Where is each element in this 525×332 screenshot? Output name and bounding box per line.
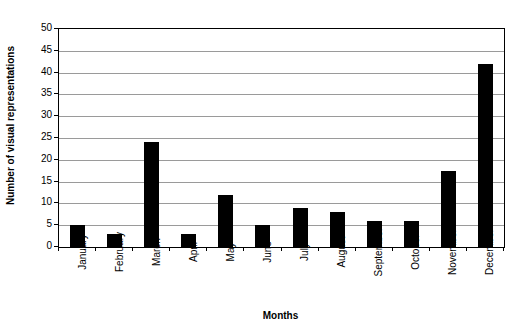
bar[interactable] bbox=[144, 142, 159, 247]
x-axis-tick-label: April bbox=[188, 242, 199, 262]
x-axis-tick-label: October bbox=[410, 234, 421, 270]
x-axis-label-slot: May bbox=[206, 250, 243, 308]
bar-slot bbox=[281, 29, 318, 247]
y-axis-tick-label: 50 bbox=[24, 23, 52, 33]
x-axis-label-slot: October bbox=[392, 250, 429, 308]
y-axis-tick-label: 25 bbox=[24, 132, 52, 142]
x-axis-tick-label: November bbox=[447, 229, 458, 275]
y-axis-tick-label: 0 bbox=[24, 241, 52, 251]
bar-slot bbox=[393, 29, 430, 247]
bar-slot bbox=[430, 29, 467, 247]
x-axis-tick-label: July bbox=[299, 243, 310, 261]
x-axis-tick-labels: JanuaryFebruaryMarchAprilMayJuneJulyAugu… bbox=[58, 250, 503, 308]
x-axis-label-slot: June bbox=[243, 250, 280, 308]
bar-slot bbox=[319, 29, 356, 247]
x-axis-tick-mark bbox=[503, 247, 504, 251]
bar-slot bbox=[244, 29, 281, 247]
x-axis-label-slot: December bbox=[466, 250, 503, 308]
x-axis-tick-label: January bbox=[77, 234, 88, 270]
bar-slot bbox=[207, 29, 244, 247]
y-axis-tick-label: 30 bbox=[24, 110, 52, 120]
y-axis-tick-labels: 05101520253035404550 bbox=[24, 22, 52, 246]
x-axis-tick-label: February bbox=[114, 232, 125, 272]
bar-slot bbox=[170, 29, 207, 247]
plot-area bbox=[58, 28, 505, 248]
bar[interactable] bbox=[218, 195, 233, 247]
x-axis-title: Months bbox=[58, 310, 503, 321]
bar-slot bbox=[356, 29, 393, 247]
x-axis-label-slot: July bbox=[280, 250, 317, 308]
x-axis-label-slot: August bbox=[318, 250, 355, 308]
y-axis-title: Number of visual representations bbox=[0, 0, 20, 250]
bar-slot bbox=[96, 29, 133, 247]
x-axis-label-slot: November bbox=[429, 250, 466, 308]
bar[interactable] bbox=[478, 64, 493, 247]
bar-slot bbox=[133, 29, 170, 247]
y-axis-tick-label: 35 bbox=[24, 88, 52, 98]
y-axis-title-text: Number of visual representations bbox=[5, 46, 16, 205]
y-axis-tick-label: 40 bbox=[24, 67, 52, 77]
x-axis-tick-label: May bbox=[225, 243, 236, 262]
x-axis-tick-label: September bbox=[373, 228, 384, 277]
x-axis-label-slot: April bbox=[169, 250, 206, 308]
bar-slot bbox=[59, 29, 96, 247]
y-axis-tick-label: 20 bbox=[24, 154, 52, 164]
x-axis-tick-label: December bbox=[484, 229, 495, 275]
y-axis-tick-label: 45 bbox=[24, 45, 52, 55]
x-axis-tick-label: March bbox=[151, 238, 162, 266]
bar-chart-figure: Number of visual representations 0510152… bbox=[0, 0, 525, 332]
y-axis-tick-label: 5 bbox=[24, 219, 52, 229]
x-axis-tick-label: August bbox=[336, 236, 347, 267]
x-axis-label-slot: September bbox=[355, 250, 392, 308]
bars-layer bbox=[59, 29, 504, 247]
bar-slot bbox=[467, 29, 504, 247]
x-axis-label-slot: March bbox=[132, 250, 169, 308]
y-axis-tick-label: 15 bbox=[24, 176, 52, 186]
x-axis-tick-label: June bbox=[262, 241, 273, 263]
bar[interactable] bbox=[293, 208, 308, 247]
y-axis-tick-label: 10 bbox=[24, 197, 52, 207]
x-axis-label-slot: February bbox=[95, 250, 132, 308]
x-axis-label-slot: January bbox=[58, 250, 95, 308]
